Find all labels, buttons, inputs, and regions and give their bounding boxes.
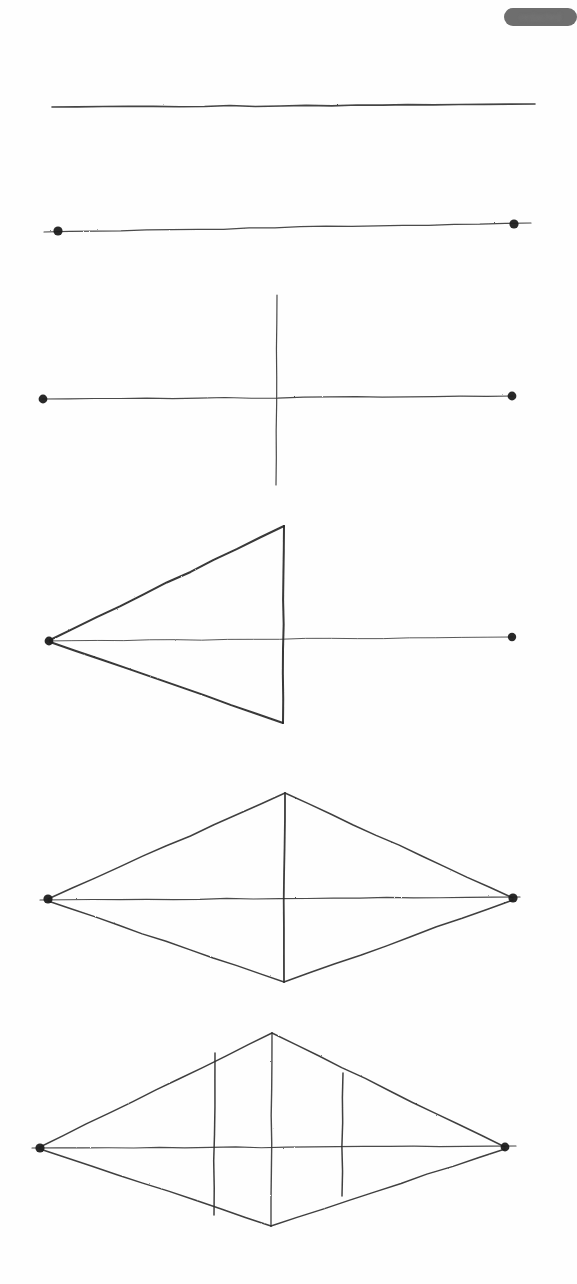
sketch-page: redacted xyxy=(0,0,577,1284)
redacted-label-text: redacted xyxy=(519,12,561,23)
chord-right-vertical xyxy=(342,1073,343,1196)
chord-vertical xyxy=(283,526,284,723)
right-vertex-dot xyxy=(508,893,517,902)
left-vertex-dot xyxy=(35,1143,44,1152)
left-vertex-dot xyxy=(43,894,52,903)
right-vertex-dot xyxy=(501,1143,510,1152)
right-endpoint-dot xyxy=(508,633,516,641)
left-endpoint-dot xyxy=(39,395,48,404)
construction-sketch-canvas xyxy=(0,0,577,1284)
right-endpoint-dot xyxy=(509,219,518,228)
redacted-label-badge: redacted xyxy=(504,8,577,26)
right-endpoint-dot xyxy=(508,392,517,401)
left-apex-dot xyxy=(45,637,54,646)
left-endpoint-dot xyxy=(53,226,62,235)
paper-background xyxy=(0,0,577,1284)
